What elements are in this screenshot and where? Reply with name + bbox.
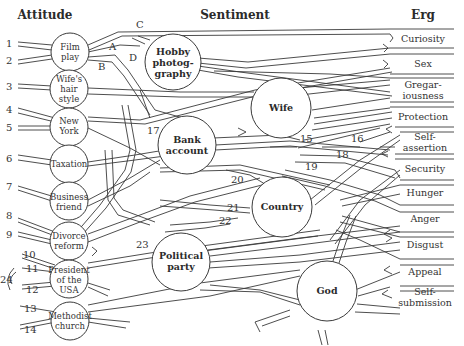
erg-security: Security bbox=[405, 163, 446, 174]
erg-appeal: Appeal bbox=[407, 266, 441, 277]
path-label-19: 19 bbox=[305, 161, 318, 172]
path-label-15: 15 bbox=[300, 133, 313, 144]
svg-text:New: New bbox=[59, 116, 79, 126]
attitude-number-12: 12 bbox=[26, 284, 39, 295]
svg-text:Wife's: Wife's bbox=[56, 74, 82, 84]
erg-protection: Protection bbox=[398, 111, 448, 122]
attitude-number-5: 5 bbox=[6, 122, 12, 133]
svg-text:Country: Country bbox=[261, 201, 304, 212]
svg-text:Business: Business bbox=[50, 192, 88, 202]
svg-text:account: account bbox=[166, 145, 209, 156]
sentiment-node-hobby-photography: Hobby photog- graphy bbox=[145, 34, 201, 90]
sentiment-node-bank-account: Bank account bbox=[158, 116, 216, 174]
attitude-node-divorce-reform: Divorce reform bbox=[50, 222, 88, 260]
header-attitude: Attitude bbox=[16, 8, 72, 22]
attitude-node-taxation: Taxation bbox=[50, 145, 88, 183]
svg-text:Divorce: Divorce bbox=[52, 231, 85, 241]
svg-text:York: York bbox=[58, 126, 79, 136]
svg-text:Gregar-: Gregar- bbox=[404, 79, 441, 90]
attitude-number-2: 2 bbox=[6, 55, 12, 66]
attitude-node-new-york: New York bbox=[50, 108, 88, 146]
svg-text:Political: Political bbox=[159, 250, 203, 261]
attitude-node-wifes-hair-style: Wife's hair style bbox=[50, 70, 88, 108]
attitude-node-president-of-the-usa: President of the USA bbox=[48, 260, 90, 298]
svg-text:style: style bbox=[59, 94, 79, 104]
path-label-17: 17 bbox=[147, 125, 160, 136]
erg-gregariousness: Gregar- iousness bbox=[402, 79, 443, 101]
path-label-18: 18 bbox=[336, 149, 349, 160]
svg-text:iousness: iousness bbox=[402, 90, 443, 101]
svg-text:Self-: Self- bbox=[414, 286, 436, 297]
svg-text:President: President bbox=[48, 265, 90, 275]
svg-text:church: church bbox=[55, 321, 86, 331]
erg-curiosity: Curiosity bbox=[401, 33, 445, 44]
attitude-number-3: 3 bbox=[6, 81, 12, 92]
header-erg: Erg bbox=[411, 8, 435, 22]
bracket-label-24: 24 bbox=[0, 274, 13, 285]
path-label-23: 23 bbox=[136, 239, 149, 250]
attitude-node-business-friend: Business friend bbox=[50, 182, 88, 220]
path-label-20: 20 bbox=[231, 174, 244, 185]
attitude-number-10: 10 bbox=[23, 249, 36, 260]
svg-text:hair: hair bbox=[60, 84, 78, 94]
erg-disgust: Disgust bbox=[407, 239, 444, 250]
erg-hunger: Hunger bbox=[407, 187, 444, 198]
svg-text:photog-: photog- bbox=[152, 57, 193, 68]
svg-text:Taxation: Taxation bbox=[51, 159, 88, 169]
sentiment-node-god: God bbox=[297, 261, 357, 321]
attitude-number-7: 7 bbox=[6, 181, 12, 192]
sentiment-node-political-party: Political party bbox=[152, 233, 210, 291]
erg-self-submission: Self- submission bbox=[398, 286, 452, 308]
erg-self-assertion: Self- assertion bbox=[403, 131, 447, 153]
attitude-number-14: 14 bbox=[24, 324, 37, 335]
path-label-22: 22 bbox=[219, 215, 232, 226]
svg-text:graphy: graphy bbox=[155, 68, 192, 79]
erg-anger: Anger bbox=[409, 213, 440, 224]
header-sentiment: Sentiment bbox=[200, 8, 270, 22]
path-label-c: C bbox=[136, 19, 144, 30]
attitude-number-11: 11 bbox=[26, 263, 39, 274]
dynamic-lattice-diagram: Attitude Sentiment Erg bbox=[0, 0, 464, 346]
svg-text:Self-: Self- bbox=[414, 131, 436, 142]
svg-text:reform: reform bbox=[54, 241, 83, 251]
sentiment-node-country: Country bbox=[252, 177, 312, 237]
attitude-number-4: 4 bbox=[6, 104, 12, 115]
path-label-a: A bbox=[108, 41, 117, 52]
attitude-number-9: 9 bbox=[6, 229, 12, 240]
erg-sex: Sex bbox=[414, 58, 432, 69]
attitude-number-6: 6 bbox=[6, 153, 12, 164]
svg-text:of the: of the bbox=[57, 275, 82, 285]
svg-text:play: play bbox=[61, 52, 79, 62]
attitude-number-13: 13 bbox=[24, 303, 37, 314]
svg-text:party: party bbox=[167, 261, 195, 272]
svg-text:assertion: assertion bbox=[403, 142, 447, 153]
svg-text:submission: submission bbox=[398, 297, 452, 308]
path-label-21: 21 bbox=[227, 202, 240, 213]
path-label-d: D bbox=[129, 52, 137, 63]
attitude-node-film-play: Film play bbox=[51, 33, 89, 71]
svg-text:Wife: Wife bbox=[268, 102, 293, 113]
sentiment-node-wife: Wife bbox=[251, 78, 311, 138]
svg-text:USA: USA bbox=[59, 285, 79, 295]
attitude-number-1: 1 bbox=[6, 38, 12, 49]
svg-text:Methodist: Methodist bbox=[48, 311, 92, 321]
svg-text:Film: Film bbox=[60, 42, 79, 52]
svg-text:friend: friend bbox=[56, 202, 82, 212]
svg-text:Bank: Bank bbox=[173, 134, 201, 145]
path-label-16: 16 bbox=[351, 133, 364, 144]
attitude-number-8: 8 bbox=[6, 210, 12, 221]
attitude-node-methodist-church: Methodist church bbox=[48, 302, 92, 340]
svg-text:God: God bbox=[316, 285, 337, 296]
svg-text:Hobby: Hobby bbox=[156, 46, 191, 57]
path-label-b: B bbox=[98, 61, 105, 72]
